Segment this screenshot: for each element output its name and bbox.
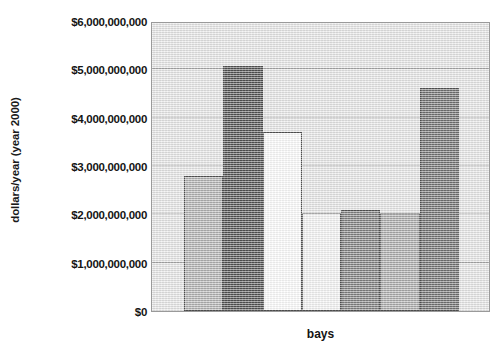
y-axis-tick-label: $4,000,000,000 [26,113,147,125]
bar [420,88,459,311]
bar [341,210,380,311]
x-axis-title: bays [151,327,490,341]
y-axis-title-text: dollars/year (year 2000) [9,97,21,222]
bar-series [152,23,489,311]
y-axis-tick-label: $2,000,000,000 [26,209,147,221]
bar [223,66,262,311]
y-axis-tick-labels: $0$1,000,000,000$2,000,000,000$3,000,000… [26,0,147,360]
y-axis-tick-label: $6,000,000,000 [26,16,147,28]
bar [263,132,302,311]
bar [184,176,223,311]
y-axis-tick-label: $5,000,000,000 [26,64,147,76]
bar [380,213,419,311]
bar-chart-figure: dollars/year (year 2000) $0$1,000,000,00… [0,0,502,360]
y-axis-tick-label: $1,000,000,000 [26,258,147,270]
y-axis-tick-label: $0 [26,306,147,318]
bar [302,213,341,311]
y-axis-tick-label: $3,000,000,000 [26,161,147,173]
plot-area [151,22,490,312]
